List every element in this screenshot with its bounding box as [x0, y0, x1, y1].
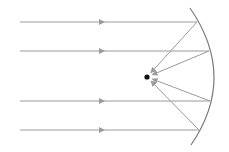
- mirror-ray-diagram: [0, 0, 229, 152]
- light-rays: [20, 22, 210, 130]
- reflected-ray-4: [151, 81, 199, 130]
- reflected-ray-3: [153, 79, 210, 101]
- reflected-ray-2: [153, 51, 209, 75]
- reflected-ray-1: [151, 22, 197, 73]
- focal-point: [144, 74, 149, 79]
